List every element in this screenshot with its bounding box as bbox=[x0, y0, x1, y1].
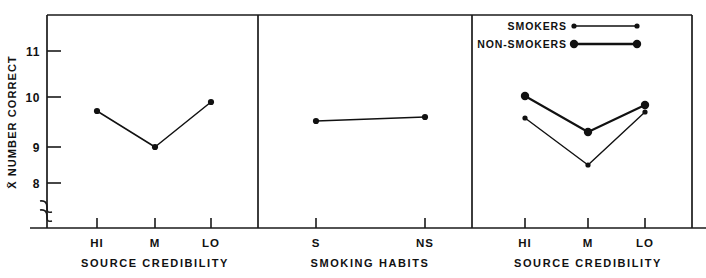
panel3-smokers-point-lo bbox=[642, 109, 647, 114]
panel2-xtick-label-s: S bbox=[312, 237, 321, 249]
panel1-point-hi bbox=[94, 108, 100, 114]
panel1-xtick-label-m: M bbox=[150, 237, 161, 249]
panel3-smokers-line bbox=[525, 112, 645, 165]
panel3-nonsmokers-line bbox=[525, 96, 645, 132]
y-tick-label-11: 11 bbox=[26, 45, 40, 59]
panel3-smokers-point-hi bbox=[522, 115, 527, 120]
chart-svg: 11 10 9 8 X̄ NUMBER CORRECT HI M LO SOUR… bbox=[0, 0, 706, 278]
panel1-xtick-label-hi: HI bbox=[90, 237, 104, 249]
panel2-xtick-label-ns: NS bbox=[416, 237, 434, 249]
legend-label-nonsmokers: NON-SMOKERS bbox=[477, 38, 567, 50]
legend-swatch-nonsmokers-point-right bbox=[633, 40, 641, 48]
legend-swatch-smokers-point-right bbox=[634, 23, 639, 28]
legend-label-smokers: SMOKERS bbox=[508, 20, 567, 32]
panel3-nonsmokers-point-m bbox=[584, 128, 592, 136]
panel3-xtick-label-m: M bbox=[583, 237, 594, 249]
figure-container: 11 10 9 8 X̄ NUMBER CORRECT HI M LO SOUR… bbox=[0, 0, 706, 278]
y-tick-label-10: 10 bbox=[25, 91, 40, 105]
y-tick-label-9: 9 bbox=[33, 141, 40, 155]
panel1-series-line bbox=[97, 102, 211, 147]
panel2-axis-title: SMOKING HABITS bbox=[311, 257, 430, 269]
panel2-point-s bbox=[313, 118, 319, 124]
panel3-nonsmokers-point-hi bbox=[521, 92, 529, 100]
y-tick-label-8: 8 bbox=[33, 177, 40, 191]
panel-source-credibility-interaction: HI M LO SOURCE CREDIBILITY SMOKERS bbox=[477, 20, 662, 269]
plot-frame bbox=[30, 15, 706, 228]
y-axis: 11 10 9 8 X̄ NUMBER CORRECT bbox=[6, 45, 61, 221]
axis-break-icon bbox=[40, 201, 52, 221]
panel3-xtick-label-lo: LO bbox=[636, 237, 654, 249]
panel3-axis-title: SOURCE CREDIBILITY bbox=[514, 257, 662, 269]
panel3-nonsmokers-point-lo bbox=[641, 101, 649, 109]
panel3-xtick-label-hi: HI bbox=[518, 237, 532, 249]
y-axis-title: X̄ NUMBER CORRECT bbox=[6, 55, 18, 189]
panel2-series-line bbox=[316, 117, 425, 121]
panel3-smokers-point-m bbox=[585, 162, 590, 167]
panel1-point-lo bbox=[208, 99, 214, 105]
legend: SMOKERS NON-SMOKERS bbox=[477, 20, 641, 50]
legend-swatch-smokers-point-left bbox=[571, 23, 576, 28]
panel-source-credibility-main: HI M LO SOURCE CREDIBILITY bbox=[81, 99, 229, 269]
panel1-point-m bbox=[152, 144, 158, 150]
panel1-xtick-label-lo: LO bbox=[202, 237, 220, 249]
panel1-axis-title: SOURCE CREDIBILITY bbox=[81, 257, 229, 269]
panel2-point-ns bbox=[422, 114, 428, 120]
legend-swatch-nonsmokers-point-left bbox=[570, 40, 578, 48]
panel-smoking-habits: S NS SMOKING HABITS bbox=[311, 114, 434, 269]
